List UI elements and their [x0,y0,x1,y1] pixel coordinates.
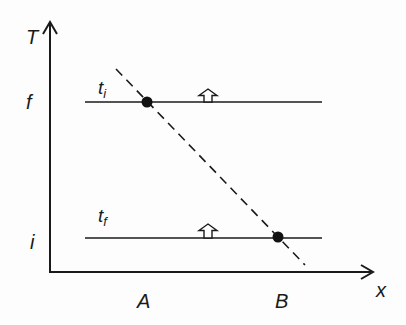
line-t-i: ti [85,77,322,102]
y-tick-f: f [26,91,34,113]
y-axis [43,22,57,272]
diagram-canvas: T x f i A B ti tf [0,0,406,325]
x-axis [49,265,373,279]
hollow-up-arrow-icon [199,224,217,238]
line-t-i-label: ti [98,77,107,101]
intersection-dot-B [273,232,284,243]
line-t-f-label: tf [98,205,108,229]
x-tick-B: B [275,290,288,312]
x-tick-A: A [136,290,150,312]
hollow-up-arrow-icon [199,89,217,102]
y-axis-label: T [26,26,40,48]
diagram-svg: T x f i A B ti tf [0,0,406,325]
x-axis-label: x [375,279,387,301]
line-t-f: tf [85,205,322,238]
y-tick-i: i [30,231,35,253]
intersection-dot-A [142,97,153,108]
